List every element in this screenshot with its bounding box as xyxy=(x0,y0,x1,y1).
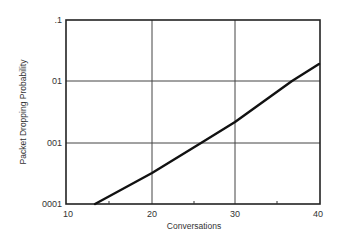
y-tick-label: .1 xyxy=(54,15,62,25)
y-tick-label: 0001 xyxy=(42,199,62,209)
x-tick-label: 10 xyxy=(63,209,73,219)
x-axis-label: Conversations xyxy=(167,221,221,231)
y-tick-label: 001 xyxy=(47,138,62,148)
x-tick-label: 40 xyxy=(313,209,323,219)
x-tick-label: 20 xyxy=(147,209,157,219)
gridlines xyxy=(66,20,320,204)
data-line xyxy=(95,64,319,204)
chart: .1 01 001 0001 10 20 30 40 Conversations… xyxy=(0,0,338,240)
plot-frame xyxy=(66,20,320,204)
y-tick-label: 01 xyxy=(52,76,62,86)
x-tick-label: 30 xyxy=(230,209,240,219)
y-axis-label: Packet Dropping Probability xyxy=(18,59,28,165)
